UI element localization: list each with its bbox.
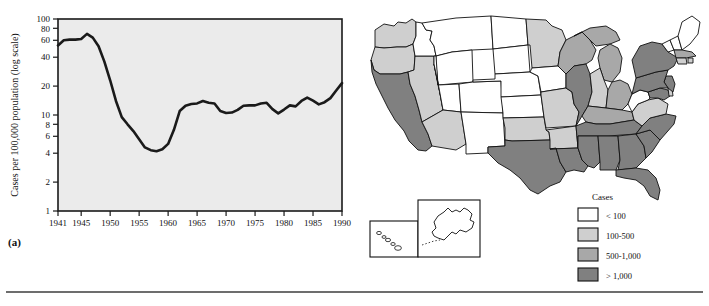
y-axis-title: Cases per 100,000 population (log scale) <box>9 33 21 196</box>
line-chart-svg: Cases per 100,000 population (log scale)… <box>0 0 360 270</box>
x-tick-label: 1941 <box>49 218 67 228</box>
map-state-nd[interactable] <box>491 16 528 49</box>
figure-root: Cases per 100,000 population (log scale)… <box>0 0 709 306</box>
x-tick-label: 1970 <box>217 218 236 228</box>
map-legend-swatch[interactable] <box>578 268 598 281</box>
map-inset-group <box>370 200 480 257</box>
y-tick-label: 60 <box>41 35 51 45</box>
x-tick-label: 1990 <box>333 218 352 228</box>
y-tick-label: 20 <box>41 81 51 91</box>
figure-bottom-rule <box>6 291 703 293</box>
map-state-ri[interactable] <box>688 58 693 63</box>
panel-b-choropleth-map: Cases < 100100-500500-1,000> 1,000 (b) <box>360 0 709 300</box>
x-tick-label: 1945 <box>72 218 91 228</box>
y-tick-label: 8 <box>46 120 51 130</box>
map-legend-swatch[interactable] <box>578 228 598 241</box>
map-state-al[interactable] <box>598 136 620 170</box>
x-tick-label: 1965 <box>188 218 207 228</box>
x-tick-label: 1985 <box>304 218 323 228</box>
map-state-sd[interactable] <box>493 45 530 74</box>
plot-area-background <box>58 19 342 211</box>
map-state-ok[interactable] <box>503 117 550 141</box>
map-legend-label: 100-500 <box>606 231 634 241</box>
y-tick-label: 40 <box>41 52 51 62</box>
map-state-wy[interactable] <box>436 50 473 85</box>
map-state-ks[interactable] <box>501 95 544 118</box>
y-axis-ticks: 100806040201086421 <box>37 14 59 216</box>
y-tick-label: 80 <box>41 24 51 34</box>
map-legend-label: 500-1,000 <box>606 251 641 261</box>
map-state-or[interactable] <box>371 44 415 74</box>
map-state-co[interactable] <box>459 81 503 113</box>
map-legend-swatch[interactable] <box>578 208 598 221</box>
map-state-ct[interactable] <box>676 58 687 64</box>
map-state-ma[interactable] <box>674 50 696 58</box>
map-legend-label: > 1,000 <box>606 271 632 281</box>
x-tick-label: 1955 <box>130 218 149 228</box>
map-legend-swatch[interactable] <box>578 248 598 261</box>
x-tick-label: 1960 <box>159 218 178 228</box>
map-legend: Cases < 100100-500500-1,000> 1,000 <box>578 192 641 281</box>
map-state-wa[interactable] <box>375 19 416 48</box>
map-state-fl[interactable] <box>616 168 660 200</box>
map-state-ar[interactable] <box>546 126 578 149</box>
map-legend-title: Cases <box>592 192 613 202</box>
panel-a-line-chart: Cases per 100,000 population (log scale)… <box>0 0 360 270</box>
y-tick-label: 4 <box>46 148 51 158</box>
x-axis-ticks: 1941194519501955196019651970197519801985… <box>49 211 352 228</box>
map-legend-label: < 100 <box>606 211 626 221</box>
panel-a-label: (a) <box>8 236 21 248</box>
x-tick-label: 1950 <box>101 218 120 228</box>
map-svg: Cases < 100100-500500-1,000> 1,000 <box>360 0 709 300</box>
x-tick-label: 1975 <box>246 218 265 228</box>
x-tick-label: 1980 <box>275 218 294 228</box>
y-tick-label: 6 <box>46 131 51 141</box>
map-inset-box-hawaii[interactable] <box>370 221 418 257</box>
y-tick-label: 1 <box>46 206 51 216</box>
y-tick-label: 2 <box>46 177 51 187</box>
map-state-oh[interactable] <box>606 80 632 110</box>
map-state-me[interactable] <box>678 16 700 50</box>
